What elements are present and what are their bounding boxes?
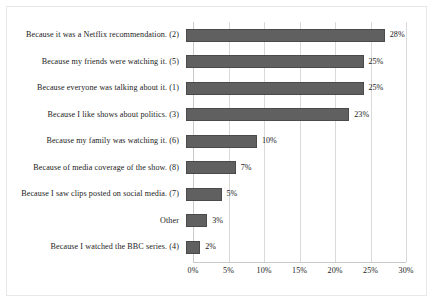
bar-row: Because everyone was talking about it. (… xyxy=(0,75,433,101)
bar xyxy=(186,188,222,201)
bar-row: Because I like shows about politics. (3)… xyxy=(0,102,433,128)
bar xyxy=(186,214,207,227)
bar-value-label: 25% xyxy=(369,83,384,93)
bar-value-label: 25% xyxy=(369,57,384,67)
bar-container: 25% xyxy=(186,75,433,101)
horizontal-bar-chart: Because it was a Netflix recommendation.… xyxy=(0,0,433,302)
category-label: Because my friends were watching it. (5) xyxy=(0,57,186,67)
bar xyxy=(186,241,200,254)
category-label: Other xyxy=(0,216,186,226)
bar-row: Because my family was watching it. (6)10… xyxy=(0,128,433,154)
bar-value-label: 5% xyxy=(227,189,238,199)
bar-container: 7% xyxy=(186,155,433,181)
bar-container: 23% xyxy=(186,102,433,128)
bar-row: Because I watched the BBC series. (4)2% xyxy=(0,234,433,260)
x-axis-line xyxy=(193,262,406,263)
bar-value-label: 23% xyxy=(354,110,369,120)
bar-row: Because it was a Netflix recommendation.… xyxy=(0,22,433,48)
category-label: Because I watched the BBC series. (4) xyxy=(0,242,186,252)
x-tick-label: 30% xyxy=(399,266,414,276)
bar-value-label: 2% xyxy=(205,242,216,252)
x-tick-label: 10% xyxy=(257,266,272,276)
bar-container: 28% xyxy=(186,22,433,48)
bar-row: Because of media coverage of the show. (… xyxy=(0,155,433,181)
bar-container: 25% xyxy=(186,49,433,75)
bar-row: Because I saw clips posted on social med… xyxy=(0,181,433,207)
bar-row: Other3% xyxy=(0,208,433,234)
category-label: Because I like shows about politics. (3) xyxy=(0,110,186,120)
x-tick-label: 15% xyxy=(292,266,307,276)
bar-value-label: 3% xyxy=(212,216,223,226)
bar-value-label: 7% xyxy=(241,163,252,173)
bar-container: 5% xyxy=(186,181,433,207)
category-label: Because my family was watching it. (6) xyxy=(0,136,186,146)
bar xyxy=(186,161,236,174)
category-label: Because everyone was talking about it. (… xyxy=(0,83,186,93)
x-axis-ticks: 0%5%10%15%20%25%30% xyxy=(0,266,433,280)
bar-rows: Because it was a Netflix recommendation.… xyxy=(0,22,433,262)
chart-screenshot: Because it was a Netflix recommendation.… xyxy=(0,0,433,302)
bar xyxy=(186,135,257,148)
bar xyxy=(186,29,385,42)
bar-row: Because my friends were watching it. (5)… xyxy=(0,49,433,75)
bar xyxy=(186,55,364,68)
bar-container: 2% xyxy=(186,234,433,260)
x-tick-label: 20% xyxy=(328,266,343,276)
bar-value-label: 28% xyxy=(390,30,405,40)
category-label: Because I saw clips posted on social med… xyxy=(0,189,186,199)
x-tick-label: 5% xyxy=(223,266,234,276)
bar-container: 10% xyxy=(186,128,433,154)
bar xyxy=(186,82,364,95)
category-label: Because of media coverage of the show. (… xyxy=(0,163,186,173)
bar-value-label: 10% xyxy=(262,136,277,146)
category-label: Because it was a Netflix recommendation.… xyxy=(0,30,186,40)
x-tick-label: 25% xyxy=(363,266,378,276)
bar-container: 3% xyxy=(186,208,433,234)
bar xyxy=(186,108,349,121)
x-tick-label: 0% xyxy=(188,266,199,276)
